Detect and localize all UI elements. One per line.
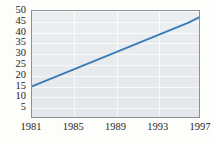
y-axis-tick-label: 50 [16, 5, 27, 15]
x-axis-labels: 19811985198919931997 [0, 121, 214, 139]
y-axis-tick-label: 45 [16, 16, 27, 26]
x-axis-tick-label: 1989 [105, 121, 126, 133]
x-axis-tick-label: 1985 [63, 121, 84, 133]
y-axis-tick-label: 40 [16, 27, 27, 37]
chart-screenshot: ) 5045403530252015105 198119851989199319… [0, 0, 214, 144]
plot-area [31, 10, 200, 118]
plot-inner [32, 11, 199, 117]
series-line-trend [32, 11, 199, 117]
y-axis-tick-label: 5 [21, 102, 26, 112]
x-axis-tick-label: 1993 [147, 121, 168, 133]
data-line [32, 17, 199, 86]
y-axis-labels: 5045403530252015105 [0, 3, 28, 125]
y-axis-tick-label: 15 [16, 81, 27, 91]
x-axis-tick-label: 1981 [21, 121, 42, 133]
y-axis-tick-label: 25 [16, 59, 27, 69]
y-axis-tick-label: 35 [16, 37, 27, 47]
y-axis-tick-label: 20 [16, 70, 27, 80]
x-axis-tick-label: 1997 [190, 121, 211, 133]
y-axis-tick-label: 10 [16, 91, 27, 101]
y-axis-tick-label: 30 [16, 48, 27, 58]
